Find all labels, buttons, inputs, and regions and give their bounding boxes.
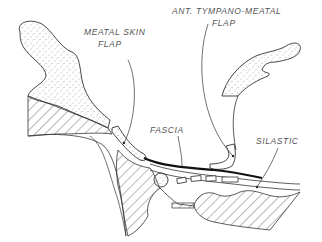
- ear-surgery-diagram: MEATAL SKIN FLAP ANT. TYMPANO-MEATAL FLA…: [0, 0, 322, 242]
- label-ant-tympano-meatal-flap-1: ANT. TYMPANO-MEATAL: [171, 6, 281, 16]
- ossicle-bridge: [172, 203, 194, 208]
- ant-tympano-meatal-flap: [210, 144, 235, 169]
- label-fascia: FASCIA: [150, 125, 184, 135]
- lower-right-bone: [194, 191, 300, 230]
- leader-meatal-skin-flap: [124, 60, 134, 143]
- label-silastic: SILASTIC: [256, 136, 299, 146]
- canal-wall-curve: [28, 134, 126, 236]
- ossicle-round: [154, 173, 168, 187]
- right-soft-tissue: [222, 43, 300, 96]
- gelfoam-blocks: [177, 175, 238, 183]
- label-meatal-skin-flap-2: FLAP: [98, 39, 122, 49]
- lower-left-bone: [117, 150, 161, 236]
- leader-fascia: [178, 136, 182, 166]
- label-ant-tympano-meatal-flap-2: FLAP: [212, 18, 236, 28]
- label-meatal-skin-flap-1: MEATAL SKIN: [84, 27, 146, 37]
- right-canal-wall: [233, 96, 238, 150]
